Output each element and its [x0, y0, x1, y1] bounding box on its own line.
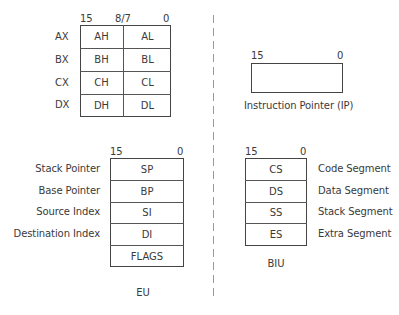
eu-bit-0: 0	[177, 146, 183, 158]
biu-cell-cs: CS	[245, 158, 307, 180]
gp-cell-al: AL	[124, 25, 171, 48]
gp-cell-dh: DH	[80, 94, 123, 117]
eu-desc-base-pointer: Base Pointer	[39, 185, 100, 197]
gp-row-name-ax: AX	[55, 31, 69, 43]
biu-cell-ss: SS	[245, 202, 307, 223]
biu-desc-stack-segment: Stack Segment	[318, 206, 393, 218]
ip-bit-15: 15	[251, 50, 264, 62]
eu-cell-sp: SP	[110, 158, 184, 180]
gp-bit-15: 15	[80, 13, 93, 25]
biu-desc-data-segment: Data Segment	[318, 185, 389, 197]
eu-cell-flags: FLAGS	[110, 245, 184, 267]
gp-cell-cl: CL	[124, 71, 171, 94]
gp-row-name-bx: BX	[55, 54, 69, 66]
biu-bit-15: 15	[245, 146, 258, 158]
biu-desc-extra-segment: Extra Segment	[318, 228, 391, 240]
ip-register-box	[251, 63, 343, 93]
ip-label: Instruction Pointer (IP)	[244, 100, 353, 112]
eu-cell-di: DI	[110, 223, 184, 245]
gp-cell-ch: CH	[80, 71, 123, 94]
eu-desc-destination-index: Destination Index	[14, 228, 100, 240]
gp-row-name-cx: CX	[55, 77, 69, 89]
eu-cell-bp: BP	[110, 180, 184, 202]
eu-biu-divider	[213, 15, 214, 299]
ip-bit-0: 0	[337, 50, 343, 62]
eu-cell-si: SI	[110, 202, 184, 223]
biu-cell-ds: DS	[245, 180, 307, 202]
gp-row-name-dx: DX	[55, 99, 69, 111]
gp-bit-8-7: 8/7	[115, 13, 131, 25]
gp-cell-ah: AH	[80, 25, 123, 48]
eu-desc-stack-pointer: Stack Pointer	[35, 163, 100, 175]
biu-desc-code-segment: Code Segment	[318, 163, 391, 175]
biu-cell-es: ES	[245, 223, 307, 246]
eu-label: EU	[130, 287, 156, 299]
gp-bit-0: 0	[163, 13, 169, 25]
biu-label: BIU	[262, 258, 290, 270]
eu-desc-source-index: Source Index	[36, 206, 100, 218]
biu-bit-0: 0	[300, 146, 306, 158]
gp-cell-bl: BL	[124, 48, 171, 71]
gp-cell-dl: DL	[124, 94, 171, 117]
gp-cell-bh: BH	[80, 48, 123, 71]
eu-bit-15: 15	[110, 146, 123, 158]
